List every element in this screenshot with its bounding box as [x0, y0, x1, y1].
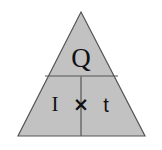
cell-label-quantity: Q	[0, 45, 162, 72]
cell-label-current: I	[43, 94, 67, 115]
formula-triangle-figure: Q I × t	[0, 0, 162, 150]
multiply-operator-symbol: ×	[69, 95, 93, 114]
triangle-diagram	[0, 0, 162, 150]
cell-label-time: t	[95, 95, 117, 115]
